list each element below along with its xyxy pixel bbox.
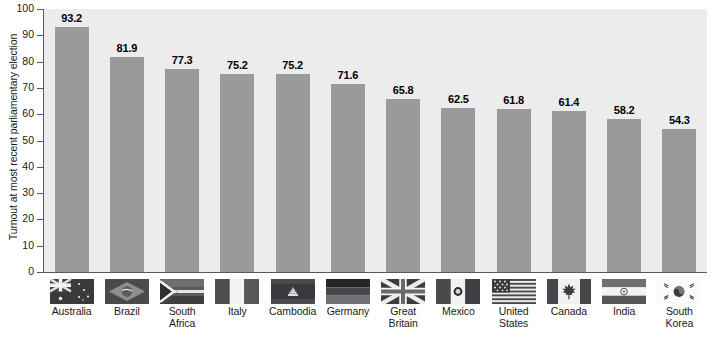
bar-value-label: 77.3 bbox=[155, 54, 210, 66]
x-category-label: South bbox=[155, 306, 210, 318]
flag-germany-icon bbox=[326, 279, 370, 304]
bar[interactable] bbox=[276, 74, 310, 272]
bar[interactable] bbox=[331, 84, 365, 272]
x-category-united-states[interactable]: UnitedStates bbox=[486, 275, 541, 344]
x-category-label: Canada bbox=[541, 306, 596, 318]
x-category-label: Mexico bbox=[431, 306, 486, 318]
x-category-label-line2: States bbox=[486, 318, 541, 330]
y-tick-label: 40 bbox=[4, 160, 34, 172]
x-category-south-korea[interactable]: SouthKorea bbox=[652, 275, 707, 344]
x-category-label-line2: Britain bbox=[376, 318, 431, 330]
bar-value-label: 81.9 bbox=[99, 42, 154, 54]
x-axis-line bbox=[43, 272, 707, 273]
bar-value-label: 65.8 bbox=[376, 84, 431, 96]
y-tick-mark bbox=[37, 114, 43, 115]
bar-column[interactable] bbox=[210, 9, 265, 272]
x-axis-categories: AustraliaBrazilSouthAfricaItalyCambodiaG… bbox=[44, 275, 707, 344]
bar-column[interactable] bbox=[541, 9, 596, 272]
bar[interactable] bbox=[110, 57, 144, 272]
bar-value-label: 93.2 bbox=[44, 12, 99, 24]
y-tick-label: 90 bbox=[4, 28, 34, 40]
bar[interactable] bbox=[552, 111, 586, 272]
bar-value-label: 58.2 bbox=[597, 104, 652, 116]
y-tick-label: 30 bbox=[4, 186, 34, 198]
bar-column[interactable] bbox=[431, 9, 486, 272]
bar[interactable] bbox=[662, 129, 696, 272]
flag-united-states-icon bbox=[492, 279, 536, 304]
y-tick-mark bbox=[37, 9, 43, 10]
bar[interactable] bbox=[55, 27, 89, 272]
y-tick-mark bbox=[37, 193, 43, 194]
y-tick-mark bbox=[37, 272, 43, 273]
x-category-india[interactable]: India bbox=[597, 275, 652, 344]
bar-column[interactable] bbox=[597, 9, 652, 272]
bar-column[interactable] bbox=[652, 9, 707, 272]
x-category-label: Great bbox=[376, 306, 431, 318]
x-category-label: Brazil bbox=[99, 306, 154, 318]
flag-india-icon bbox=[602, 279, 646, 304]
flag-australia-icon bbox=[50, 279, 94, 304]
x-category-label-line2: Africa bbox=[155, 318, 210, 330]
bar-value-label: 54.3 bbox=[652, 114, 707, 126]
y-tick-mark bbox=[37, 219, 43, 220]
x-category-label-line2: Korea bbox=[652, 318, 707, 330]
bar[interactable] bbox=[607, 119, 641, 272]
y-tick-label: 80 bbox=[4, 55, 34, 67]
flag-brazil-icon bbox=[105, 279, 149, 304]
y-tick-mark bbox=[37, 88, 43, 89]
y-tick-mark bbox=[37, 35, 43, 36]
y-tick-label: 70 bbox=[4, 81, 34, 93]
bar-column[interactable] bbox=[320, 9, 375, 272]
x-category-canada[interactable]: Canada bbox=[541, 275, 596, 344]
x-category-brazil[interactable]: Brazil bbox=[99, 275, 154, 344]
y-tick-mark bbox=[37, 62, 43, 63]
bar-column[interactable] bbox=[376, 9, 431, 272]
flag-south-korea-icon bbox=[657, 279, 701, 304]
y-tick-label: 20 bbox=[4, 212, 34, 224]
x-category-cambodia[interactable]: Cambodia bbox=[265, 275, 320, 344]
bar[interactable] bbox=[386, 99, 420, 272]
bar-value-label: 62.5 bbox=[431, 93, 486, 105]
bar-value-label: 71.6 bbox=[320, 69, 375, 81]
y-tick-label: 10 bbox=[4, 239, 34, 251]
x-category-mexico[interactable]: Mexico bbox=[431, 275, 486, 344]
bar-value-label: 61.4 bbox=[541, 96, 596, 108]
x-category-label: Germany bbox=[320, 306, 375, 318]
y-tick-label: 50 bbox=[4, 134, 34, 146]
x-category-label: India bbox=[597, 306, 652, 318]
x-category-label: United bbox=[486, 306, 541, 318]
bar-value-label: 75.2 bbox=[265, 59, 320, 71]
flag-mexico-icon bbox=[436, 279, 480, 304]
bar-column[interactable] bbox=[155, 9, 210, 272]
y-tick-label: 100 bbox=[4, 2, 34, 14]
y-tick-mark bbox=[37, 167, 43, 168]
flag-italy-icon bbox=[215, 279, 259, 304]
flag-cambodia-icon bbox=[271, 279, 315, 304]
y-tick-mark bbox=[37, 246, 43, 247]
bar-value-label: 75.2 bbox=[210, 59, 265, 71]
flag-great-britain-icon bbox=[381, 279, 425, 304]
bar[interactable] bbox=[220, 74, 254, 272]
bar-column[interactable] bbox=[265, 9, 320, 272]
flag-canada-icon bbox=[547, 279, 591, 304]
x-category-great-britain[interactable]: GreatBritain bbox=[376, 275, 431, 344]
x-category-label: Cambodia bbox=[265, 306, 320, 318]
flag-south-africa-icon bbox=[160, 279, 204, 304]
x-category-italy[interactable]: Italy bbox=[210, 275, 265, 344]
y-tick-mark bbox=[37, 141, 43, 142]
bar-column[interactable] bbox=[486, 9, 541, 272]
x-category-australia[interactable]: Australia bbox=[44, 275, 99, 344]
x-category-label: Italy bbox=[210, 306, 265, 318]
y-tick-label: 60 bbox=[4, 107, 34, 119]
x-category-label: Australia bbox=[44, 306, 99, 318]
y-tick-label: 0 bbox=[4, 265, 34, 277]
bar-value-label: 61.8 bbox=[486, 94, 541, 106]
x-category-south-africa[interactable]: SouthAfrica bbox=[155, 275, 210, 344]
bar[interactable] bbox=[441, 108, 475, 272]
bar-column[interactable] bbox=[44, 9, 99, 272]
x-category-germany[interactable]: Germany bbox=[320, 275, 375, 344]
bar[interactable] bbox=[497, 109, 531, 272]
chart-root: Turnout at most recent parliamentary ele… bbox=[0, 0, 713, 344]
x-category-label: South bbox=[652, 306, 707, 318]
bar[interactable] bbox=[165, 69, 199, 272]
